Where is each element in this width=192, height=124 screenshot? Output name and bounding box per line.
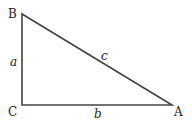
vertex-label-a: A [173,105,183,119]
triangle-shape [22,14,172,105]
vertex-label-c: C [8,105,17,119]
side-label-b: b [94,107,102,121]
side-label-a: a [10,55,17,69]
vertex-label-b: B [8,7,17,21]
side-label-c: c [101,49,108,63]
right-triangle-diagram: B C A a b c [0,0,192,124]
